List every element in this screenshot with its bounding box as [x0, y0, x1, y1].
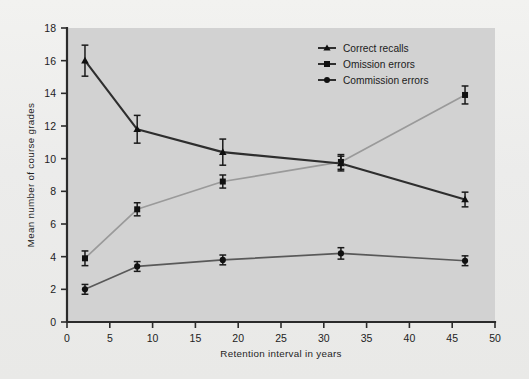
data-point	[220, 257, 226, 263]
data-point	[220, 179, 226, 185]
chart-figure: 05101520253035404550024681012141618 Corr…	[0, 0, 529, 379]
legend-label: Commission errors	[343, 75, 428, 86]
x-tick-label: 35	[361, 332, 373, 344]
data-point	[462, 258, 468, 264]
y-tick-label: 12	[44, 120, 56, 132]
legend-marker	[324, 77, 330, 83]
x-tick-label: 10	[147, 332, 159, 344]
x-tick-label: 30	[318, 332, 330, 344]
y-tick-label: 14	[44, 87, 56, 99]
legend-label: Correct recalls	[343, 43, 409, 54]
figure-page: 05101520253035404550024681012141618 Corr…	[0, 0, 529, 379]
data-point	[134, 206, 140, 212]
x-tick-label: 40	[404, 332, 416, 344]
x-tick-label: 25	[275, 332, 287, 344]
y-tick-label: 2	[50, 283, 56, 295]
chart-svg: 05101520253035404550024681012141618 Corr…	[0, 0, 529, 379]
y-tick-label: 18	[44, 22, 56, 34]
data-point	[338, 250, 344, 256]
x-tick-label: 50	[489, 332, 501, 344]
x-tick-label: 0	[64, 332, 70, 344]
y-tick-label: 10	[44, 153, 56, 165]
plot-area-background	[67, 28, 495, 322]
x-tick-label: 15	[190, 332, 202, 344]
x-axis-title: Retention interval in years	[220, 348, 341, 359]
legend-label: Omission errors	[343, 59, 415, 70]
data-point	[82, 286, 88, 292]
x-tick-label: 20	[232, 332, 244, 344]
data-point	[462, 92, 468, 98]
y-tick-label: 8	[50, 185, 56, 197]
x-tick-label: 45	[446, 332, 458, 344]
y-tick-label: 6	[50, 218, 56, 230]
y-axis-title: Mean number of course grades	[25, 103, 36, 248]
data-point	[134, 263, 140, 269]
y-tick-label: 0	[50, 316, 56, 328]
x-tick-label: 5	[107, 332, 113, 344]
data-point	[82, 255, 88, 261]
legend-marker	[324, 61, 330, 67]
y-tick-label: 4	[50, 251, 56, 263]
y-tick-label: 16	[44, 55, 56, 67]
